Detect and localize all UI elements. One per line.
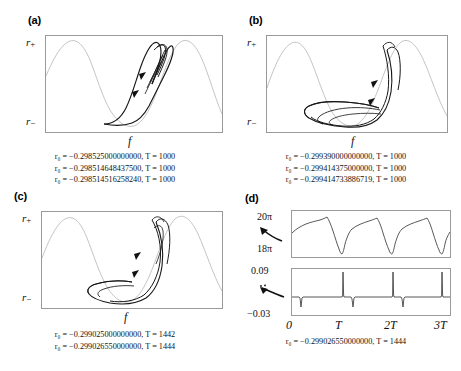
panel-b-curves bbox=[267, 36, 447, 132]
panel-a-plot bbox=[45, 35, 223, 133]
panel-a-label: (a) bbox=[28, 14, 41, 26]
panel-d-upper-tick-top: 20π bbox=[257, 211, 272, 222]
panel-c-plot bbox=[41, 211, 223, 309]
panel-a-caption-line-2: r₀ = −0.298514648437500, T = 1000 bbox=[0, 163, 230, 175]
panel-d-upper-tick-bottom: 18π bbox=[257, 243, 272, 254]
panel-c-caption: r₀ = −0.299025000000000, T = 1442 r₀ = −… bbox=[0, 329, 230, 352]
panel-d-lower-curve bbox=[292, 269, 450, 315]
panel-d-xtick-0: 0 bbox=[286, 318, 292, 333]
panel-c-caption-line-1: r₀ = −0.299025000000000, T = 1442 bbox=[0, 329, 230, 341]
panel-d: (d) 20π 18π 0.09 −0.03 0 T 2T 3T r₀ = −0… bbox=[231, 190, 461, 368]
panel-d-upper-plot bbox=[291, 210, 451, 258]
panel-b-plot bbox=[266, 35, 448, 133]
panel-c-ylabel-bottom: r− bbox=[22, 291, 31, 304]
panel-b-ylabel-top: r+ bbox=[247, 36, 256, 49]
panel-d-xtick-T: T bbox=[335, 318, 342, 333]
panel-b-caption-line-1: r₀ = −0.299390000000000, T = 1000 bbox=[231, 151, 461, 163]
panel-a-ylabel-top: r+ bbox=[26, 36, 35, 49]
panel-c: (c) r+ r− f r₀ = −0.299025000000000, T =… bbox=[0, 190, 230, 362]
panel-c-caption-line-2: r₀ = −0.299026550000000, T = 1444 bbox=[0, 341, 230, 353]
panel-a-curves bbox=[46, 36, 222, 132]
panel-a: (a) r+ r− f r₀ = −0.298525000000000, T =… bbox=[0, 14, 230, 186]
panel-a-caption-line-1: r₀ = −0.298525000000000, T = 1000 bbox=[0, 151, 230, 163]
panel-b: (b) r+ r− f r₀ = −0.299390000000000, T =… bbox=[231, 14, 461, 186]
panel-a-arrow-upper bbox=[139, 72, 146, 80]
panel-d-label: (d) bbox=[245, 192, 258, 204]
panel-b-caption: r₀ = −0.299390000000000, T = 1000 r₀ = −… bbox=[231, 151, 461, 186]
panel-d-lower-arrow-icon bbox=[258, 283, 286, 301]
panel-b-ylabel-bottom: r− bbox=[247, 115, 256, 128]
panel-c-xlabel: f bbox=[124, 310, 127, 325]
panel-a-caption-line-3: r₀ = −0.298514516258240, T = 1000 bbox=[0, 174, 230, 186]
panel-d-caption-line-1: r₀ = −0.299026550000000, T = 1444 bbox=[231, 336, 461, 348]
panel-b-label: (b) bbox=[249, 14, 262, 26]
panel-d-upper-arrow-icon bbox=[258, 225, 284, 243]
panel-a-ylabel-bottom: r− bbox=[26, 115, 35, 128]
panel-d-lower-tick-bottom: −0.03 bbox=[247, 308, 270, 319]
panel-c-curves bbox=[42, 212, 222, 308]
panel-d-lower-plot bbox=[291, 268, 451, 316]
panel-b-xlabel: f bbox=[351, 134, 354, 149]
panel-c-arrow-lower bbox=[132, 270, 139, 278]
panel-d-lower-tick-top: 0.09 bbox=[251, 265, 269, 276]
panel-b-caption-line-2: r₀ = −0.299414375000000, T = 1000 bbox=[231, 163, 461, 175]
panel-b-arrow-upper bbox=[371, 80, 378, 88]
panel-d-xtick-3T: 3T bbox=[434, 318, 447, 333]
panel-d-upper-curve bbox=[292, 211, 450, 257]
panel-c-label: (c) bbox=[14, 190, 27, 202]
panel-a-xlabel: f bbox=[128, 134, 131, 149]
panel-d-xtick-2T: 2T bbox=[384, 318, 397, 333]
panel-b-caption-line-3: r₀ = −0.299414733886719, T = 1000 bbox=[231, 174, 461, 186]
panel-a-caption: r₀ = −0.298525000000000, T = 1000 r₀ = −… bbox=[0, 151, 230, 186]
panel-c-ylabel-top: r+ bbox=[22, 212, 31, 225]
panel-d-caption: r₀ = −0.299026550000000, T = 1444 bbox=[231, 336, 461, 348]
panel-c-arrow-upper bbox=[134, 252, 141, 260]
